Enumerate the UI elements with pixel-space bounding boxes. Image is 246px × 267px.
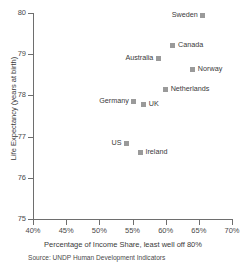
x-tick-label: 45%	[53, 226, 79, 235]
data-point-label: Norway	[198, 65, 222, 73]
y-axis-title: Life Expectancy (years at birth)	[9, 34, 18, 184]
data-point-marker	[141, 102, 146, 107]
x-tick-label: 60%	[153, 226, 179, 235]
data-point-label: Australia	[125, 54, 153, 62]
x-tick	[99, 220, 100, 225]
data-point-label: UK	[149, 100, 159, 108]
x-tick	[133, 220, 134, 225]
data-point-label: Netherlands	[171, 85, 210, 93]
data-point-label: Germany	[99, 97, 129, 105]
data-point-label: US	[112, 139, 122, 147]
scatter-chart: 757677787980 40%45%50%55%60%65%70% Life …	[0, 0, 246, 267]
x-tick	[199, 220, 200, 225]
x-tick	[232, 220, 233, 225]
data-point-marker	[124, 141, 129, 146]
x-tick	[33, 220, 34, 225]
source-note: Source: UNDP Human Development Indicator…	[28, 254, 165, 262]
data-point-label: Sweden	[172, 11, 198, 19]
data-point-marker	[200, 13, 205, 18]
data-point-marker	[156, 56, 161, 61]
x-tick-label: 70%	[219, 226, 245, 235]
x-tick	[166, 220, 167, 225]
y-tick-label: 80	[4, 9, 26, 17]
x-tick-label: 50%	[86, 226, 112, 235]
x-axis-title: Percentage of Income Share, least well o…	[0, 240, 246, 249]
data-point-marker	[138, 150, 143, 155]
x-tick	[66, 220, 67, 225]
data-point-label: Ireland	[145, 148, 167, 156]
data-point-marker	[131, 99, 136, 104]
data-point-marker	[190, 67, 195, 72]
x-tick-label: 40%	[20, 226, 46, 235]
x-tick-label: 65%	[186, 226, 212, 235]
data-point-label: Canada	[178, 41, 203, 49]
x-tick-label: 55%	[120, 226, 146, 235]
data-point-marker	[163, 87, 168, 92]
data-point-marker	[170, 43, 175, 48]
y-tick-label: 75	[4, 215, 26, 223]
